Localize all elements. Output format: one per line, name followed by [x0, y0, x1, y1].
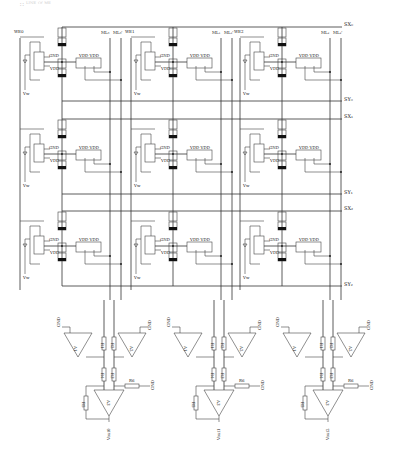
mtj-pinned-layer	[278, 135, 286, 138]
circuit-diagram: ∷ ᴸᴵᴺᴱ ᴼᶠ ᴹᴱ SX₀SY₀SX₁SY₁SX₂SY₂ML₀ML₀'WE…	[0, 0, 405, 452]
gnd-label: GND	[49, 53, 59, 58]
resistor-r6	[235, 384, 249, 388]
junction-dot	[340, 171, 342, 173]
row-1: SX₁SY₁	[62, 113, 353, 195]
r1-label: R1	[319, 343, 324, 349]
ml-label: ML₂	[321, 30, 330, 35]
gnd-label: GND	[49, 237, 59, 242]
transistor-pair	[187, 58, 212, 68]
gnd-label: GND	[150, 380, 155, 390]
transistor-pair	[187, 242, 212, 252]
transistor-body	[254, 52, 264, 70]
schematic-canvas: SX₀SY₀SX₁SY₁SX₂SY₂ML₀ML₀'WE0ML₁ML₁'WE1ML…	[0, 0, 405, 452]
mtj-pinned-layer	[278, 43, 286, 46]
transistor-pair	[187, 150, 212, 160]
vdd-pair-label: VDD VDD	[78, 237, 99, 242]
a1-label: A1	[73, 345, 78, 351]
ml-prime-label: ML₀'	[113, 30, 122, 35]
ml-label: ML₀	[101, 30, 110, 35]
r1-label: R1	[210, 343, 215, 349]
transistor-body	[34, 52, 44, 70]
mtj-pinned-layer	[169, 166, 177, 169]
opamp-a2	[118, 333, 146, 357]
r4-label: R4	[210, 373, 215, 379]
r4-label: R4	[100, 373, 105, 379]
gnd-label: GND	[269, 237, 279, 242]
opamp-a1	[174, 333, 202, 357]
junction-dot	[220, 71, 222, 73]
amplifier-block-1: A1A2GNDGNDR1R2R4R3R6GNDA3R5Vout1	[166, 300, 265, 441]
r2-label: R2	[220, 343, 225, 349]
r3-label: R3	[220, 373, 225, 379]
junction-dot	[120, 263, 122, 265]
mtj-pinned-layer	[278, 74, 286, 77]
mtj-pinned-layer	[58, 74, 66, 77]
vw-label: Vw	[133, 275, 141, 280]
junction-dot	[231, 171, 233, 173]
mtj-pinned-layer	[58, 258, 66, 261]
cell-r1-c0: GNDVDDVwVDD VDD	[20, 120, 122, 188]
a3-label: A3	[106, 399, 111, 406]
mtj-pinned-layer	[58, 227, 66, 230]
r6-label: R6	[239, 378, 245, 383]
mtj-pinned-layer	[278, 258, 286, 261]
gnd-label: GND	[369, 380, 374, 390]
mtj-pinned-layer	[58, 135, 66, 138]
junction-dot	[109, 163, 111, 165]
junction-dot	[329, 71, 331, 73]
mtj-pinned-layer	[169, 135, 177, 138]
mtj-pinned-layer	[169, 74, 177, 77]
transistor-pair	[296, 242, 321, 252]
vdd-pair-label: VDD VDD	[189, 237, 210, 242]
transistor-body	[34, 236, 44, 254]
mtj-pinned-layer	[278, 166, 286, 169]
junction-dot	[109, 255, 111, 257]
a2-label: A2	[239, 345, 244, 352]
gnd-label: GND	[275, 317, 280, 327]
vw-label: Vw	[22, 91, 30, 96]
r6-label: R6	[129, 378, 135, 383]
transistor-pair	[296, 58, 321, 68]
sx-label: SX₂	[344, 205, 353, 211]
junction-dot	[231, 79, 233, 81]
gnd-label: GND	[269, 145, 279, 150]
junction-dot	[120, 171, 122, 173]
cell-r2-c0: GNDVDDVwVDD VDD	[20, 212, 122, 280]
sy-label: SY₀	[344, 96, 353, 102]
r6-label: R6	[348, 378, 354, 383]
mtj-pinned-layer	[169, 227, 177, 230]
vdd-pair-label: VDD VDD	[78, 145, 99, 150]
junction-dot	[329, 255, 331, 257]
cell-r0-c1: GNDVDDVwVDD VDD	[131, 28, 233, 96]
vw-label: Vw	[133, 91, 141, 96]
junction-dot	[220, 163, 222, 165]
transistor-body	[145, 52, 155, 70]
r2-label: R2	[110, 343, 115, 349]
r4-label: R4	[319, 373, 324, 379]
transistor-body	[254, 236, 264, 254]
vw-label: Vw	[22, 275, 30, 280]
ml-label: ML₁	[212, 30, 221, 35]
r3-label: R3	[329, 373, 334, 379]
vdd-pair-label: VDD VDD	[78, 53, 99, 58]
sy-label: SY₂	[344, 281, 353, 287]
gnd-label: GND	[257, 320, 262, 330]
junction-dot	[340, 263, 342, 265]
gnd-label: GND	[160, 145, 170, 150]
vw-label: Vw	[22, 183, 30, 188]
transistor-body	[254, 144, 264, 162]
resistor-r6	[344, 384, 358, 388]
opamp-a1	[283, 333, 311, 357]
vdd-pair-label: VDD VDD	[298, 145, 319, 150]
gnd-label: GND	[160, 53, 170, 58]
a2-label: A2	[348, 345, 353, 352]
transistor-body	[34, 144, 44, 162]
transistor-body	[145, 144, 155, 162]
a1-label: A1	[292, 345, 297, 351]
a2-label: A2	[129, 345, 134, 352]
junction-dot	[220, 255, 222, 257]
cell-r2-c2: GNDVDDVwVDD VDD	[240, 212, 342, 280]
vout-label: Vout0	[106, 428, 111, 441]
amplifier-block-2: A1A2GNDGNDR1R2R4R3R6GNDA3R5Vout2	[275, 300, 374, 441]
a1-label: A1	[183, 345, 188, 351]
